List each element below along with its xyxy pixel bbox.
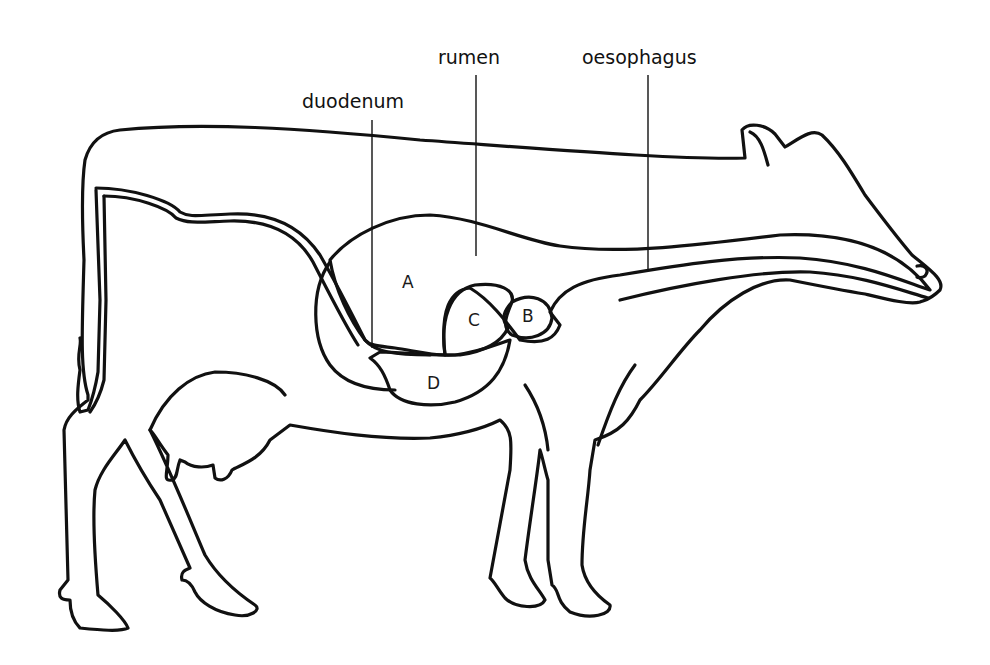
oesophagus-label: oesophagus [582, 46, 697, 68]
front-leg-curve-1 [525, 385, 548, 450]
intestine-tube-upper [96, 188, 430, 355]
rumen-label: rumen [438, 46, 500, 68]
hind-leg-curve [150, 372, 285, 430]
rumen-chamber-A [330, 215, 930, 355]
intestine-tube-lower [104, 196, 358, 345]
cow-digestive-diagram: duodenum rumen oesophagus A B C D [0, 0, 990, 665]
cow-body-outline [59, 125, 940, 630]
front-leg-curve-2 [598, 365, 635, 445]
diagram-canvas: duodenum rumen oesophagus A B C D [0, 0, 990, 665]
duodenum-label: duodenum [302, 90, 404, 112]
ear-inner-line [750, 132, 768, 165]
chamber-C-label: C [468, 310, 480, 330]
chamber-A-label: A [402, 272, 414, 292]
chamber-B-label: B [522, 306, 534, 326]
tail-outline [78, 190, 100, 412]
oesophagus-line-lower [620, 272, 928, 300]
chamber-D-label: D [427, 373, 440, 393]
